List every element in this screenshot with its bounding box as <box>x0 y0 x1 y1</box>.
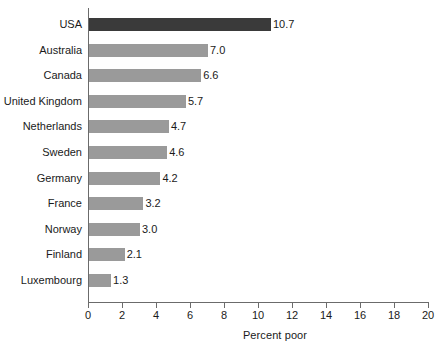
x-tick-label: 4 <box>153 309 159 322</box>
bar <box>89 172 160 185</box>
x-axis-title: Percent poor <box>0 329 442 341</box>
x-tick <box>88 303 89 308</box>
x-tick-label: 8 <box>221 309 227 322</box>
x-tick-label: 16 <box>354 309 366 322</box>
bar-value-label: 5.7 <box>188 95 203 108</box>
x-tick <box>428 303 429 308</box>
category-label: Netherlands <box>0 120 82 133</box>
bar-chart: 02468101214161820 10.77.06.65.74.74.64.2… <box>0 0 442 355</box>
category-label: USA <box>0 18 82 31</box>
category-label: Luxembourg <box>0 274 82 287</box>
x-axis-title-text: Percent poor <box>243 329 307 341</box>
x-tick <box>360 303 361 308</box>
category-label: Finland <box>0 248 82 261</box>
category-label: Sweden <box>0 146 82 159</box>
x-tick <box>394 303 395 308</box>
bar <box>89 95 186 108</box>
x-tick <box>292 303 293 308</box>
x-tick-label: 10 <box>252 309 264 322</box>
category-label: Australia <box>0 44 82 57</box>
bar <box>89 248 125 261</box>
bar-value-label: 4.2 <box>162 172 177 185</box>
bar <box>89 274 111 287</box>
x-tick-label: 14 <box>320 309 332 322</box>
bar <box>89 44 208 57</box>
x-tick-label: 6 <box>187 309 193 322</box>
x-tick-label: 20 <box>422 309 434 322</box>
bar-value-label: 1.3 <box>113 274 128 287</box>
bar <box>89 69 201 82</box>
x-tick-label: 2 <box>119 309 125 322</box>
bar <box>89 146 167 159</box>
bar-value-label: 7.0 <box>210 44 225 57</box>
bar <box>89 120 169 133</box>
x-tick <box>122 303 123 308</box>
bar-value-label: 4.6 <box>169 146 184 159</box>
category-label: Canada <box>0 69 82 82</box>
bar-value-label: 3.2 <box>145 197 160 210</box>
x-tick <box>258 303 259 308</box>
x-tick-label: 0 <box>85 309 91 322</box>
x-tick <box>326 303 327 308</box>
bar-value-label: 3.0 <box>142 223 157 236</box>
x-tick <box>156 303 157 308</box>
x-tick-label: 18 <box>388 309 400 322</box>
bar-value-label: 6.6 <box>203 69 218 82</box>
category-label: Germany <box>0 172 82 185</box>
bar <box>89 197 143 210</box>
bar <box>89 18 271 31</box>
x-tick <box>224 303 225 308</box>
x-tick-label: 12 <box>286 309 298 322</box>
bar-value-label: 10.7 <box>273 18 294 31</box>
bar-value-label: 2.1 <box>127 248 142 261</box>
x-tick <box>190 303 191 308</box>
category-label: France <box>0 197 82 210</box>
category-label: Norway <box>0 223 82 236</box>
bar <box>89 223 140 236</box>
category-label: United Kingdom <box>0 95 82 108</box>
bar-value-label: 4.7 <box>171 120 186 133</box>
